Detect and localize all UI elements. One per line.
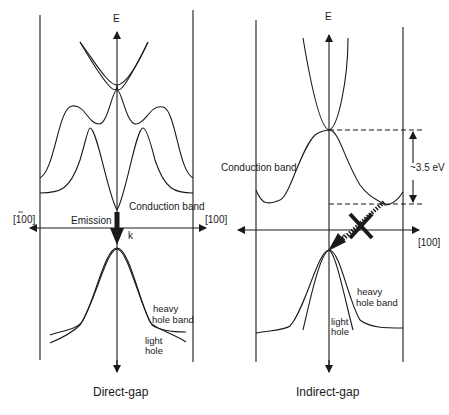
light-hole-label-2: hole [145,345,163,356]
direction-label-pos: [100] [418,237,440,248]
emission-arrow-head [110,228,124,245]
emission-label: Emission [71,215,112,226]
direction-label-neg: [100] [13,214,35,225]
k-axis-label: k [128,230,134,241]
conduction-band-label: Conduction band [221,162,297,173]
direction-label-pos: [100] [205,214,227,225]
heavy-hole-label-2: hole band [356,297,398,308]
conduction-band-label: Conduction band [129,201,205,212]
energy-axis-label: E [113,13,120,24]
gap-energy-label: ~3.5 eV [410,162,445,173]
upper-conduction-band [80,42,148,90]
direct-gap-title: Direct-gap [93,385,149,399]
light-hole-label-2: hole [331,326,349,337]
heavy-hole-label-1: heavy [357,286,383,297]
heavy-hole-band [50,248,186,342]
indirect-gap-title: Indirect-gap [296,385,360,399]
energy-axis-label: E [325,11,332,22]
heavy-hole-label-2: hole band [152,314,194,325]
band-diagram: E k [100] [100] Emission Conduction band… [0,0,449,415]
heavy-hole-label-1: heavy [153,303,179,314]
upper-conduction-band [303,38,348,130]
